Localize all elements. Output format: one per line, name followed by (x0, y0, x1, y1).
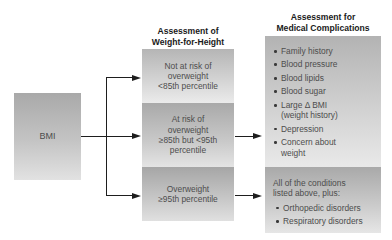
category-line: Overweight (167, 184, 209, 194)
category-line: overweight (168, 71, 209, 81)
arrowhead-icon (253, 133, 262, 139)
connector-bmi-horizontal (81, 136, 107, 137)
complication-item: Blood sugar (273, 86, 381, 96)
connector-overweight-to-complications (235, 195, 255, 196)
complications-intro: All of the conditions listed above, plus… (273, 178, 367, 199)
category-line: ≥95th percentile (158, 194, 218, 204)
complications-extra-list: Orthopedic disorders Respiratory disorde… (275, 203, 381, 227)
category-line: overweight (168, 125, 209, 135)
connector-to-not-at-risk (106, 77, 134, 78)
category-overweight: Overweight ≥95th percentile (142, 167, 234, 221)
complication-item: Family history (273, 46, 381, 56)
complication-item: Blood lipids (273, 73, 381, 83)
category-line: At risk of (172, 114, 205, 124)
complications-list: Family history Blood pressure Blood lipi… (273, 46, 381, 158)
connector-to-overweight (106, 195, 134, 196)
arrowhead-icon (132, 193, 141, 199)
category-line: percentile (170, 145, 206, 155)
category-line: Not at risk of (164, 61, 211, 71)
arrowhead-icon (253, 193, 262, 199)
category-at-risk: At risk of overweight ≥85th but <95th pe… (142, 103, 234, 167)
bmi-box: BMI (14, 93, 81, 180)
category-line: <85th percentile (158, 81, 218, 91)
complication-item: Blood pressure (273, 59, 381, 69)
complication-item: Large Δ BMI (weight history) (273, 100, 343, 121)
complications-overweight-box: All of the conditions listed above, plus… (265, 167, 381, 233)
category-not-at-risk: Not at risk of overweight <85th percenti… (142, 49, 234, 103)
bmi-label: BMI (39, 131, 55, 141)
heading-weight-for-height-line1: Assessment of (136, 26, 240, 37)
category-line: ≥85th but <95th (159, 135, 217, 145)
complications-at-risk-box: Family history Blood pressure Blood lipi… (265, 36, 381, 167)
complication-item: Concern about weight (273, 137, 359, 158)
arrowhead-icon (132, 75, 141, 81)
connector-vertical-trunk (106, 77, 107, 196)
complication-item: Orthopedic disorders (275, 203, 381, 213)
complication-item: Respiratory disorders (275, 216, 381, 226)
heading-weight-for-height: Assessment of Weight-for-Height (136, 26, 240, 47)
heading-medical-complications: Assessment for Medical Complications (262, 12, 384, 33)
connector-at-risk-to-complications (235, 136, 255, 137)
heading-weight-for-height-line2: Weight-for-Height (136, 37, 240, 48)
arrowhead-icon (132, 133, 141, 139)
heading-medical-line1: Assessment for (262, 12, 384, 23)
complication-item: Depression (273, 124, 381, 134)
heading-medical-line2: Medical Complications (262, 23, 384, 34)
connector-to-at-risk (106, 136, 134, 137)
